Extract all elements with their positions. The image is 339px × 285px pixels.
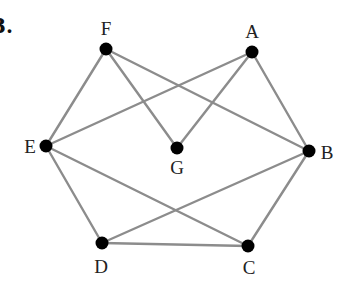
node-f <box>100 43 113 56</box>
edge-e-c <box>46 146 248 246</box>
node-d <box>96 237 109 250</box>
edge-f-g <box>106 49 177 148</box>
node-label-g: G <box>170 157 184 178</box>
node-label-f: F <box>101 18 112 39</box>
node-e <box>40 140 53 153</box>
node-c <box>242 240 255 253</box>
graph-diagram: FAEGBDC <box>0 0 339 285</box>
node-label-e: E <box>24 136 36 157</box>
edge-a-e <box>46 52 252 146</box>
node-label-b: B <box>321 142 334 163</box>
graph-figure: 3. FAEGBDC <box>0 0 339 285</box>
edge-b-d <box>102 151 309 243</box>
edge-d-c <box>102 243 248 246</box>
nodes-layer <box>40 43 316 253</box>
node-label-d: D <box>94 256 108 277</box>
node-a <box>246 46 259 59</box>
node-b <box>303 145 316 158</box>
node-label-c: C <box>243 257 256 278</box>
edge-a-g <box>177 52 252 148</box>
node-g <box>171 142 184 155</box>
node-label-a: A <box>245 21 259 42</box>
